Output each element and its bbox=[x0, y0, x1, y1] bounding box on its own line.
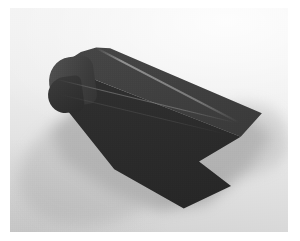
screenshot-root: Dark charcoal extruded angle profile wit… bbox=[0, 0, 300, 241]
photo-plate: Dark charcoal extruded angle profile wit… bbox=[10, 8, 288, 232]
charcoal-angle-profile bbox=[10, 8, 288, 232]
object-fold-creases bbox=[10, 8, 288, 232]
